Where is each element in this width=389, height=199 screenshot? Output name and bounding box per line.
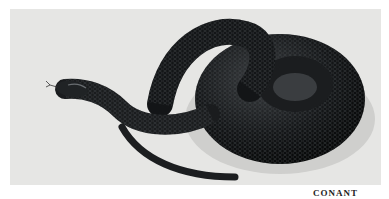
snake-illustration <box>10 9 381 185</box>
photo-credit: CONANT <box>313 188 358 198</box>
snake-photograph <box>10 9 381 185</box>
